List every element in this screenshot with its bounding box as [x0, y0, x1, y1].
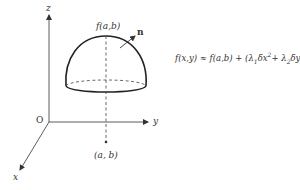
- origin-label: O: [36, 116, 43, 125]
- formula-mid2: δy: [290, 53, 300, 63]
- z-axis-label: z: [46, 4, 51, 13]
- x-axis-label: x: [13, 173, 18, 182]
- x-axis: [20, 122, 49, 170]
- base-point-dot: [105, 141, 108, 144]
- formula-mid1: δx: [258, 53, 268, 63]
- surface-diagram: [0, 0, 300, 190]
- formula-plus: + λ: [271, 53, 286, 63]
- formula-approx: ≈: [200, 53, 207, 63]
- formula-rhs-part1: f(a,b) + (λ: [210, 53, 254, 63]
- peak-label: f(a,b): [96, 22, 120, 31]
- y-axis-label: y: [153, 117, 158, 126]
- normal-label: n: [137, 28, 144, 37]
- base-point-label: (a, b): [94, 151, 118, 160]
- formula-lhs: f(x,y): [175, 53, 197, 63]
- approximation-formula: f(x,y) ≈ f(a,b) + (λ1δx2+ λ2δy2)/2: [175, 52, 300, 65]
